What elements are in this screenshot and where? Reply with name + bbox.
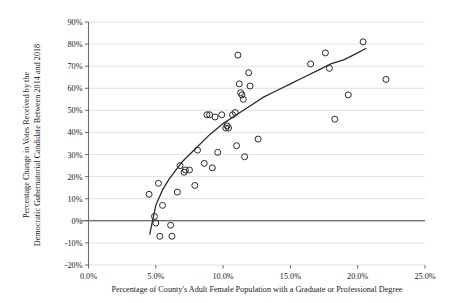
data-point (174, 189, 180, 195)
y-tick-label: 60% (67, 84, 82, 93)
data-point (219, 112, 225, 118)
y-axis-title-line-1: Percentage Change in Votes Received by t… (22, 72, 31, 218)
y-tick-label: 30% (67, 151, 82, 160)
x-tick-label: 25.0% (414, 272, 435, 281)
data-point (168, 222, 174, 228)
data-points (146, 39, 389, 239)
y-tick-label: 0% (72, 217, 83, 226)
y-tick-label: 70% (67, 62, 82, 71)
data-point (332, 116, 338, 122)
data-point (160, 202, 166, 208)
data-point (255, 136, 261, 142)
x-tick-labels: 0.0%5.0%10.0%15.0%20.0%25.0% (80, 272, 436, 281)
data-point (236, 81, 242, 87)
y-tick-label: -20% (65, 261, 83, 270)
chart-figure: -20%-10%0%10%20%30%40%50%60%70%80%90% 0.… (0, 0, 458, 303)
trend-line-path (150, 49, 366, 235)
data-point (155, 180, 161, 186)
scatter-plot: -20%-10%0%10%20%30%40%50%60%70%80%90% 0.… (0, 0, 458, 303)
y-tick-label: 90% (67, 18, 82, 27)
x-tick-label: 5.0% (147, 272, 164, 281)
data-point (186, 167, 192, 173)
data-point (234, 143, 240, 149)
y-tick-label: 40% (67, 128, 82, 137)
x-tick-marks (89, 265, 426, 269)
data-point (192, 182, 198, 188)
x-tick-label: 10.0% (213, 272, 234, 281)
data-point (246, 70, 252, 76)
x-axis-title: Percentage of County's Adult Female Popu… (112, 285, 403, 294)
data-point (146, 191, 152, 197)
data-point (235, 52, 241, 58)
data-point (383, 76, 389, 82)
data-point (209, 165, 215, 171)
y-tick-label: 50% (67, 106, 82, 115)
data-point (345, 92, 351, 98)
data-point (195, 147, 201, 153)
gridlines (89, 22, 426, 265)
y-tick-labels: -20%-10%0%10%20%30%40%50%60%70%80%90% (65, 18, 83, 270)
data-point (157, 233, 163, 239)
y-tick-label: -10% (65, 239, 83, 248)
data-point (322, 50, 328, 56)
data-point (169, 233, 175, 239)
data-point (212, 114, 218, 120)
y-axis-title-line-2: Democratic Gubernatorial Candidate Betwe… (33, 44, 42, 246)
data-point (201, 160, 207, 166)
y-tick-label: 20% (67, 173, 82, 182)
trend-line (150, 49, 366, 235)
y-tick-label: 10% (67, 195, 82, 204)
x-tick-label: 20.0% (347, 272, 368, 281)
x-tick-label: 15.0% (280, 272, 301, 281)
x-tick-label: 0.0% (80, 272, 97, 281)
y-tick-label: 80% (67, 40, 82, 49)
